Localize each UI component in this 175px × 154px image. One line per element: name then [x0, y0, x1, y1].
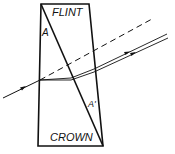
prism-diagram: FLINT A A' CROWN — [0, 0, 175, 154]
flint-label: FLINT — [52, 6, 84, 18]
angle-a-label: A — [41, 27, 49, 38]
glass-interface-line — [41, 4, 103, 146]
crown-label: CROWN — [50, 131, 93, 143]
emergent-ray-1 — [94, 34, 167, 69]
angle-a-prime-label: A' — [87, 99, 96, 109]
